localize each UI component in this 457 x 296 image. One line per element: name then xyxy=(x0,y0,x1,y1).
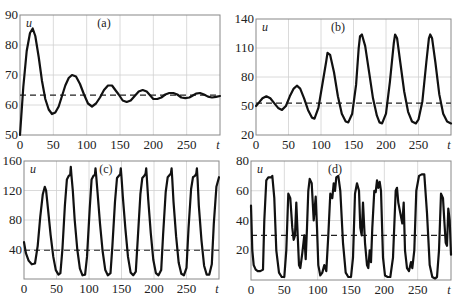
x-tick-label: 150 xyxy=(112,281,132,296)
x-axis-label: t xyxy=(447,138,451,152)
y-tick-label: 110 xyxy=(235,40,254,55)
y-axis-label: u xyxy=(257,162,263,176)
y-tick-label: 160 xyxy=(3,153,23,168)
y-tick-label: 140 xyxy=(235,11,255,26)
y-tick-label: 60 xyxy=(236,183,249,198)
x-tick-label: 250 xyxy=(177,137,197,152)
panel-title: (c) xyxy=(99,162,112,176)
x-tick-label: 50 xyxy=(50,281,63,296)
figure: 0501001502002505060708090tu(a) 050100150… xyxy=(0,0,457,296)
y-tick-label: 80 xyxy=(9,212,22,227)
panel-c: 0501001502002504080120160tu(c) xyxy=(3,153,220,296)
x-tick-label: 100 xyxy=(311,137,331,152)
panel-title: (a) xyxy=(97,16,110,30)
y-tick-label: 40 xyxy=(236,213,249,228)
x-tick-label: 200 xyxy=(144,281,164,296)
x-tick-label: 100 xyxy=(79,281,99,296)
x-tick-label: 250 xyxy=(408,282,428,296)
x-tick-label: 200 xyxy=(375,282,395,296)
x-tick-label: 50 xyxy=(282,137,295,152)
y-tick-label: 50 xyxy=(241,98,254,113)
x-tick-label: 150 xyxy=(110,137,130,152)
y-axis-label: u xyxy=(262,20,268,34)
x-axis-label: t xyxy=(447,283,451,296)
x-tick-label: 150 xyxy=(341,282,361,296)
y-tick-label: 80 xyxy=(236,153,249,168)
y-tick-label: 60 xyxy=(5,97,18,112)
panel-d: 05010015020025020406080tu(d) xyxy=(236,153,451,296)
y-tick-label: 120 xyxy=(3,183,23,198)
y-tick-label: 40 xyxy=(9,242,22,257)
y-tick-label: 90 xyxy=(5,7,18,22)
x-axis-label: t xyxy=(216,138,220,152)
panel-a: 0501001502002505060708090tu(a) xyxy=(5,7,220,152)
x-axis-label: t xyxy=(215,282,219,296)
y-tick-label: 20 xyxy=(236,242,249,257)
x-tick-label: 200 xyxy=(144,137,164,152)
y-tick-label: 20 xyxy=(241,127,254,142)
panel-title: (b) xyxy=(331,20,345,34)
x-tick-label: 100 xyxy=(308,282,328,296)
x-tick-label: 150 xyxy=(344,137,364,152)
y-axis-label: u xyxy=(30,162,36,176)
x-tick-label: 100 xyxy=(77,137,97,152)
y-tick-label: 70 xyxy=(5,67,18,82)
x-tick-label: 0 xyxy=(248,282,255,296)
y-tick-label: 80 xyxy=(241,69,254,84)
y-tick-label: 80 xyxy=(5,37,18,52)
x-tick-label: 250 xyxy=(409,137,429,152)
x-tick-label: 50 xyxy=(278,282,291,296)
panel-title: (d) xyxy=(328,162,342,176)
x-tick-label: 0 xyxy=(21,281,28,296)
x-tick-label: 50 xyxy=(47,137,60,152)
y-tick-label: 50 xyxy=(5,127,18,142)
x-tick-label: 250 xyxy=(177,281,197,296)
y-axis-label: u xyxy=(26,16,32,30)
panel-b: 050100150200250205080110140tu(b) xyxy=(235,11,452,152)
x-tick-label: 200 xyxy=(376,137,396,152)
